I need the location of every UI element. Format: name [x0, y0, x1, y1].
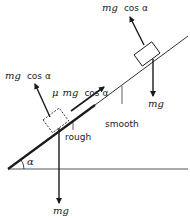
upper-normal-label: mg cos α: [102, 0, 148, 14]
incline-smooth-section: [95, 36, 188, 105]
upper-weight-label: mg: [148, 98, 164, 109]
angle-label: α: [27, 156, 34, 167]
smooth-label: smooth: [105, 119, 139, 129]
lower-normal-label: mg cos α: [5, 65, 51, 82]
lower-normal-arrow: [35, 84, 50, 117]
upper-normal-arrow: [130, 17, 144, 45]
angle-arc: [21, 160, 24, 170]
rough-label: rough: [65, 132, 91, 142]
upper-block: [134, 42, 160, 66]
lower-weight-label: mg: [53, 205, 69, 216]
friction-label: μ mg cos α: [52, 82, 108, 99]
inclined-plane-diagram: α mg mg cos α μ mg cos α rough smooth mg…: [0, 0, 190, 220]
